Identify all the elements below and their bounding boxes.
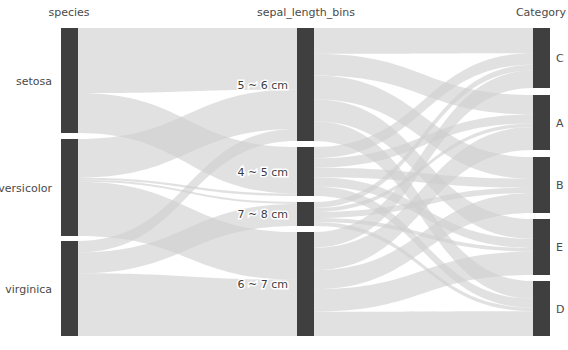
label-species-setosa: setosa [16,75,52,88]
label-category-d: D [556,303,564,316]
dimension-title-category: Category [516,6,567,19]
label-category-e: E [556,241,563,254]
bar-sepal-7-8-cm[interactable] [297,202,314,226]
label-species-versicolor: versicolor [0,182,52,195]
label-species-virginica: virginica [5,283,52,296]
label-sepal-7-8-cm: 7 ~ 8 cm [238,208,288,221]
label-category-b: B [556,179,564,192]
bar-category-d[interactable] [533,281,550,336]
bar-species-setosa[interactable] [61,28,78,133]
parcats-svg[interactable]: setosaversicolorvirginica 5 ~ 6 cm4 ~ 5 … [0,0,568,350]
bar-species-virginica[interactable] [61,241,78,336]
bar-sepal-6-7-cm[interactable] [297,232,314,336]
bar-sepal-5-6-cm[interactable] [297,28,314,141]
label-category-a: A [556,117,564,130]
sepal-to-category-ribbon[interactable] [314,28,533,54]
bar-species-versicolor[interactable] [61,139,78,236]
bar-category-c[interactable] [533,28,550,88]
axis-bars-sepal-length-bins[interactable] [297,28,314,336]
dimension-title-species: species [48,6,89,19]
bar-category-b[interactable] [533,157,550,213]
bar-sepal-4-5-cm[interactable] [297,147,314,196]
bar-category-e[interactable] [533,219,550,275]
label-sepal-6-7-cm: 6 ~ 7 cm [238,278,288,291]
parallel-categories-chart: setosaversicolorvirginica 5 ~ 6 cm4 ~ 5 … [0,0,568,350]
sepal-to-category-ribbon[interactable] [314,311,533,336]
dimension-title-sepal-length-bins: sepal_length_bins [257,6,355,19]
bar-category-a[interactable] [533,95,550,150]
axis-bars-category[interactable] [533,28,550,336]
axis-bars-species[interactable] [61,28,78,336]
label-sepal-4-5-cm: 4 ~ 5 cm [238,166,288,179]
label-category-c: C [556,52,564,65]
label-sepal-5-6-cm: 5 ~ 6 cm [238,79,288,92]
